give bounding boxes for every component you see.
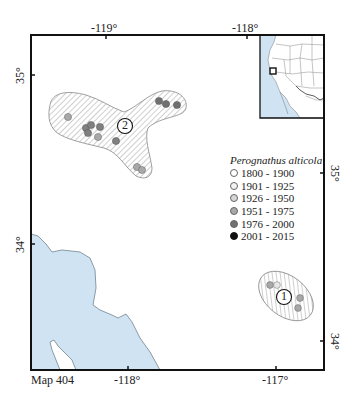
legend-dot-icon bbox=[230, 232, 238, 240]
legend-dot-icon bbox=[230, 207, 238, 215]
record-point bbox=[295, 305, 302, 312]
left-tick-label-35: 35° bbox=[13, 67, 28, 84]
legend-title: Perognathus alticola bbox=[230, 154, 330, 166]
legend-item: 1951 - 1975 bbox=[230, 205, 330, 218]
legend-item: 1800 - 1900 bbox=[230, 167, 330, 180]
legend-item: 1926 - 1950 bbox=[230, 192, 330, 205]
range-number-2: 2 bbox=[120, 118, 130, 133]
ocean-area bbox=[31, 234, 160, 370]
legend-item: 1901 - 1925 bbox=[230, 180, 330, 193]
record-point bbox=[155, 97, 162, 104]
legend-item: 2001 - 2015 bbox=[230, 230, 330, 243]
inset-locator-map bbox=[260, 35, 324, 118]
legend-item: 1976 - 2000 bbox=[230, 217, 330, 230]
legend-dot-icon bbox=[230, 169, 238, 177]
record-point bbox=[267, 282, 274, 289]
study-area-marker bbox=[270, 68, 276, 74]
record-point bbox=[84, 129, 91, 136]
record-point bbox=[162, 100, 169, 107]
top-tick-label-119: -119° bbox=[91, 21, 117, 36]
record-point bbox=[94, 133, 101, 140]
pacific-ocean bbox=[31, 234, 160, 370]
top-tick-label-118: -118° bbox=[232, 21, 258, 36]
map-number-label: Map 404 bbox=[31, 373, 74, 388]
legend-dot-icon bbox=[230, 220, 238, 228]
legend: Perognathus alticola 1800 - 1900 1901 - … bbox=[230, 154, 330, 243]
legend-dot-icon bbox=[230, 194, 238, 202]
record-point bbox=[112, 137, 119, 144]
record-point bbox=[96, 123, 103, 130]
range-number-1: 1 bbox=[279, 289, 289, 304]
record-point bbox=[173, 101, 180, 108]
record-point bbox=[64, 113, 71, 120]
bottom-tick-label-118: -118° bbox=[114, 373, 140, 388]
right-tick-label-34: 34° bbox=[327, 333, 342, 350]
left-tick-label-34: 34° bbox=[13, 236, 28, 253]
bottom-tick-label-117: -117° bbox=[262, 373, 288, 388]
record-point bbox=[297, 295, 304, 302]
record-point bbox=[87, 121, 94, 128]
legend-dot-icon bbox=[230, 182, 238, 190]
record-point bbox=[138, 166, 145, 173]
record-point bbox=[274, 282, 281, 289]
